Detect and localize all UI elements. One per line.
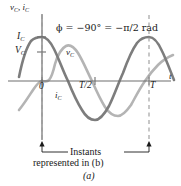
x-tick-label-zero: 0 <box>39 81 44 91</box>
amplitude-label-current: IC <box>17 31 24 42</box>
panel-label: (a) <box>83 170 95 181</box>
caption-represented-in: represented in (b) <box>33 157 104 168</box>
amplitude-label-voltage: VC <box>15 45 25 56</box>
x-tick-label-period: T <box>150 80 155 90</box>
x-tick-label-half-period: T/2 <box>79 80 92 90</box>
caption-instants: Instants <box>70 146 101 157</box>
y-axis-label: vC, iC <box>10 2 29 13</box>
phase-equation-annotation: ϕ = −90° = −π/2 rad <box>56 22 158 33</box>
instants-arrow-right <box>146 141 151 147</box>
curve-label-current: iC <box>55 90 62 101</box>
instants-arrow-left <box>39 141 44 147</box>
curve-label-voltage: vC <box>66 47 74 58</box>
x-axis-label: t <box>169 71 172 81</box>
